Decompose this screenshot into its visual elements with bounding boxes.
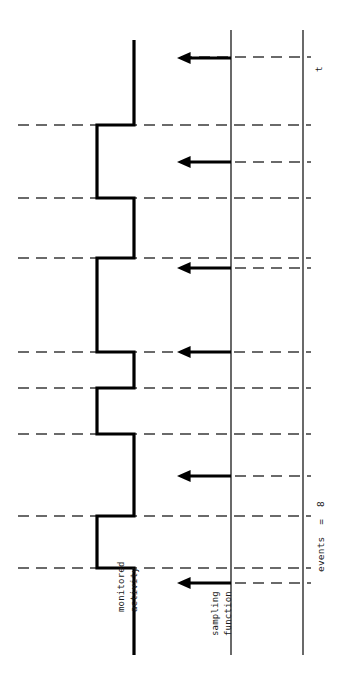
monitored-activity-label-line1: monitored xyxy=(117,561,126,612)
sampling-impulse xyxy=(181,159,231,166)
time-axis-label: t xyxy=(314,66,324,72)
sampling-function-label-line2: function xyxy=(224,591,233,636)
gridline-group xyxy=(18,57,311,583)
monitored-activity-label-line2: activity xyxy=(130,567,139,612)
events-count-label: events = 8 xyxy=(316,501,326,572)
sampling-function-label-line1: sampling xyxy=(211,591,220,636)
sampling-impulse-group xyxy=(181,55,231,587)
sampling-impulse xyxy=(181,580,231,587)
diagram-canvas xyxy=(0,0,337,676)
sampling-impulse xyxy=(181,55,231,62)
axis-group xyxy=(231,30,303,655)
sampling-impulse xyxy=(181,349,231,356)
sampling-impulse xyxy=(181,473,231,480)
timing-diagram-figure: monitored activity sampling function eve… xyxy=(0,0,337,676)
sampling-impulse xyxy=(181,265,231,272)
